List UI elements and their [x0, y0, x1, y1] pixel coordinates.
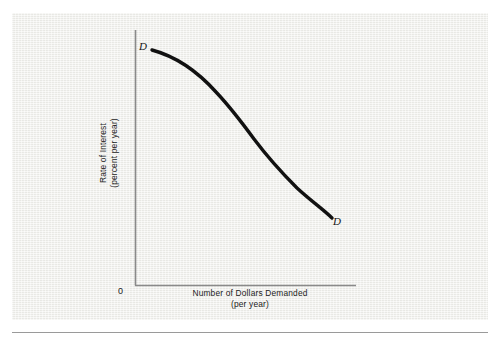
curve-label-start: D [139, 40, 147, 52]
y-axis-label: Rate of Interest (percent per year) [96, 98, 122, 208]
y-axis-label-line1: Rate of Interest [98, 118, 109, 188]
demand-curve [152, 50, 332, 218]
curve-label-end: D [333, 215, 341, 227]
y-axis-label-line2: (percent per year) [109, 118, 120, 188]
origin-label: 0 [118, 286, 123, 296]
figure-root: Rate of Interest (percent per year) Numb… [0, 0, 501, 343]
x-axis-label-line1: Number of Dollars Demanded [160, 288, 340, 299]
x-axis-label: Number of Dollars Demanded (per year) [160, 288, 340, 310]
x-axis-label-line2: (per year) [160, 299, 340, 310]
